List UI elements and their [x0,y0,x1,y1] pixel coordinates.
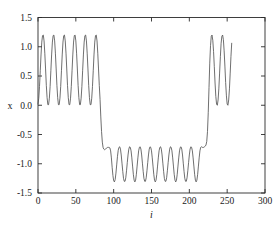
x-tick-label: 150 [144,196,159,206]
x-axis-label: i [150,209,153,220]
x-axis-ticks [38,18,265,194]
x-tick-label: 250 [220,196,235,206]
plot-canvas: 050100150200250300 -1.5-1.0-0.50.00.51.0… [0,0,276,227]
y-axis-ticks [38,18,265,194]
y-tick-label: 1.0 [20,42,32,52]
y-tick-label: -0.5 [17,130,32,140]
x-tick-label: 0 [36,196,41,206]
x-tick-label: 300 [258,196,273,206]
y-axis-tick-labels: -1.5-1.0-0.50.00.51.01.5 [17,13,32,199]
axes-frame [38,18,265,194]
chart-figure: 050100150200250300 -1.5-1.0-0.50.00.51.0… [0,0,276,227]
y-tick-label: -1.5 [17,188,32,198]
plot-frame [38,18,265,194]
x-tick-label: 200 [182,196,197,206]
y-tick-label: 1.5 [20,13,32,23]
y-tick-label: 0.0 [20,101,32,111]
x-tick-label: 50 [71,196,81,206]
y-tick-label: -1.0 [17,159,32,169]
x-tick-label: 100 [107,196,122,206]
series-line-x [38,35,232,182]
x-axis-tick-labels: 050100150200250300 [36,196,273,206]
y-tick-label: 0.5 [20,71,32,81]
y-axis-label: x [8,100,13,111]
